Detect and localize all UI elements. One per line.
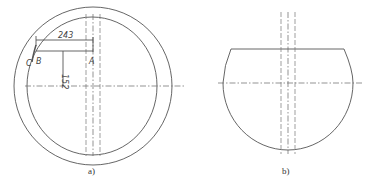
truncated-sphere-outline — [223, 49, 353, 150]
dimension-label-243: 243 — [58, 31, 73, 40]
label-point-a: A — [88, 57, 94, 66]
dimension-label-152: 152 — [60, 74, 69, 89]
figure-b: b) — [218, 12, 362, 176]
technical-drawing: 243 152 B C A a) b) — [0, 0, 369, 189]
label-point-b: B — [36, 57, 42, 66]
label-point-c: C — [26, 59, 32, 68]
figure-a: 243 152 B C A a) — [14, 7, 185, 176]
caption-a: a) — [88, 166, 95, 176]
caption-b: b) — [282, 166, 290, 176]
